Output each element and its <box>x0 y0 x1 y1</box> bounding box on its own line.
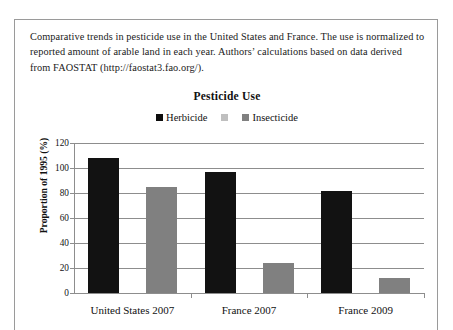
x-axis-category-label: United States 2007 <box>90 304 174 316</box>
chart-bars: United States 2007France 2007France 2009 <box>74 20 424 330</box>
y-axis-tick-label: 0 <box>43 288 69 298</box>
x-axis-category-label: France 2007 <box>222 304 277 316</box>
y-axis-tick-label: 80 <box>43 188 69 198</box>
figure-container: Comparative trends in pesticide use in t… <box>14 19 438 330</box>
x-axis-tick-mark <box>307 293 308 298</box>
x-axis-tick-mark-end <box>424 293 425 298</box>
bar-insecticide-0 <box>146 187 177 293</box>
x-axis-tick-mark <box>191 293 192 298</box>
chart-plot-area: Proportion of 1995 (%) 020406080100120 U… <box>15 20 439 330</box>
y-axis-tick-label: 20 <box>43 263 69 273</box>
bar-herbicide-0 <box>88 158 119 293</box>
bar-herbicide-1 <box>205 172 236 293</box>
bar-insecticide-2 <box>379 278 410 293</box>
x-axis-category-label: France 2009 <box>338 304 393 316</box>
y-axis-tick-labels: 020406080100120 <box>43 20 69 330</box>
y-axis-tick-label: 40 <box>43 238 69 248</box>
bar-herbicide-2 <box>321 191 352 294</box>
y-axis-tick-label: 120 <box>43 138 69 148</box>
y-axis-tick-label: 100 <box>43 163 69 173</box>
y-axis-tick-label: 60 <box>43 213 69 223</box>
bar-insecticide-1 <box>263 263 294 293</box>
